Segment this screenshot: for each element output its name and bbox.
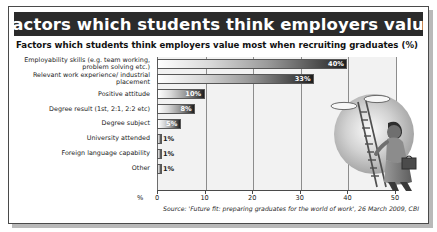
bar: 1%	[157, 164, 162, 174]
bar-series: 40%33%10%8%5%1%1%1%	[157, 57, 395, 190]
bar: 8%	[157, 104, 195, 114]
category-label: Degree subject	[8, 117, 154, 132]
percent-axis-label: %	[137, 194, 143, 202]
bar: 5%	[157, 119, 181, 129]
chart-subtitle: Factors which students think employers v…	[16, 40, 416, 50]
source-attribution: Source: 'Future fit: preparing graduates…	[163, 205, 419, 212]
bar-value-label: 1%	[163, 150, 177, 158]
bar-row: 8%	[157, 102, 395, 117]
bar-row: 33%	[157, 72, 395, 87]
bar-row: 1%	[157, 161, 395, 176]
category-label: Other	[8, 161, 154, 176]
category-label: Foreign language capability	[8, 146, 154, 161]
bar-value-label: 33%	[295, 75, 313, 83]
bar-row: 10%	[157, 87, 395, 102]
x-axis-line	[157, 190, 395, 191]
bar-row: 1%	[157, 146, 395, 161]
bar-value-label: 5%	[166, 120, 180, 128]
x-axis-tick-label: 10	[200, 194, 208, 202]
chart-figure: Factors which students think employers v…	[0, 0, 437, 232]
bar: 33%	[157, 74, 314, 84]
category-label-text: Foreign language capability	[61, 150, 154, 157]
x-axis-tick-label: 40	[343, 194, 351, 202]
category-label: Degree result (1st, 2:1, 2:2 etc)	[8, 102, 154, 117]
category-label-text: University attended	[87, 135, 154, 142]
category-axis-labels: Employability skills (e.g. team working,…	[8, 57, 154, 190]
category-label: Positive attitude	[8, 87, 154, 102]
bar-value-label: 1%	[163, 165, 177, 173]
bar: 40%	[157, 59, 347, 69]
x-axis-tick-label: 30	[296, 194, 304, 202]
category-label-text: Degree subject	[102, 120, 154, 127]
chart-title-banner: Factors which students think employers v…	[14, 12, 423, 36]
bar: 1%	[157, 149, 162, 159]
category-label: University attended	[8, 131, 154, 146]
x-axis-tick-label: 20	[248, 194, 256, 202]
page-title: Factors which students think employers v…	[14, 15, 423, 34]
category-label: Relevant work experience/ industrial pla…	[8, 72, 154, 87]
x-axis-tick-label: 50	[391, 194, 399, 202]
x-axis-tick-label: 0	[155, 194, 159, 202]
bar: 10%	[157, 89, 205, 99]
bar-row: 1%	[157, 131, 395, 146]
bar: 1%	[157, 134, 162, 144]
category-label-text: Positive attitude	[98, 91, 154, 98]
category-label-text: Relevant work experience/ industrial pla…	[8, 72, 154, 86]
bar-value-label: 8%	[180, 105, 194, 113]
bar-value-label: 40%	[328, 60, 346, 68]
bar-value-label: 10%	[185, 90, 203, 98]
category-label: Employability skills (e.g. team working,…	[8, 57, 154, 72]
category-label-text: Other	[132, 165, 154, 172]
category-label-text: Employability skills (e.g. team working,…	[8, 57, 154, 71]
bar-row: 5%	[157, 117, 395, 132]
category-label-text: Degree result (1st, 2:1, 2:2 etc)	[49, 106, 154, 113]
gridline	[396, 57, 397, 190]
bar-row: 40%	[157, 57, 395, 72]
bar-value-label: 1%	[163, 135, 177, 143]
